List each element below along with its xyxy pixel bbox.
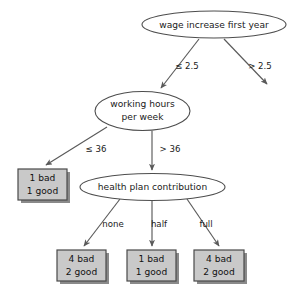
decision-tree-diagram: wage increase first year working hours p… — [0, 0, 290, 302]
edge-label-root-right: > 2.5 — [248, 61, 272, 71]
node-working-hours-label-line2: per week — [122, 112, 165, 122]
leaf-full-line1: 4 bad — [206, 254, 232, 264]
edge-label-root-left: ≤ 2.5 — [175, 61, 199, 71]
edge-label-hours-right: > 36 — [160, 144, 181, 154]
node-health-plan-label: health plan contribution — [98, 182, 207, 192]
edge-label-plan-half: half — [151, 219, 168, 229]
node-working-hours-label-line1: working hours — [110, 99, 175, 109]
edge-label-plan-full: full — [199, 219, 212, 229]
decision-tree-figure: wage increase first year working hours p… — [0, 0, 290, 302]
leaf-none-line1: 4 bad — [69, 254, 95, 264]
leaf-le36-line2: 1 good — [27, 186, 58, 196]
leaf-half-line1: 1 bad — [139, 254, 165, 264]
leaf-le36-line1: 1 bad — [30, 173, 56, 183]
leaf-none-line2: 2 good — [66, 267, 97, 277]
edge-label-hours-left: ≤ 36 — [86, 144, 107, 154]
edge-label-plan-none: none — [102, 219, 123, 229]
node-root-label: wage increase first year — [159, 20, 269, 30]
leaf-full-line2: 2 good — [203, 267, 234, 277]
node-working-hours-ellipse[interactable] — [95, 92, 190, 131]
leaf-half-line2: 1 good — [136, 267, 167, 277]
